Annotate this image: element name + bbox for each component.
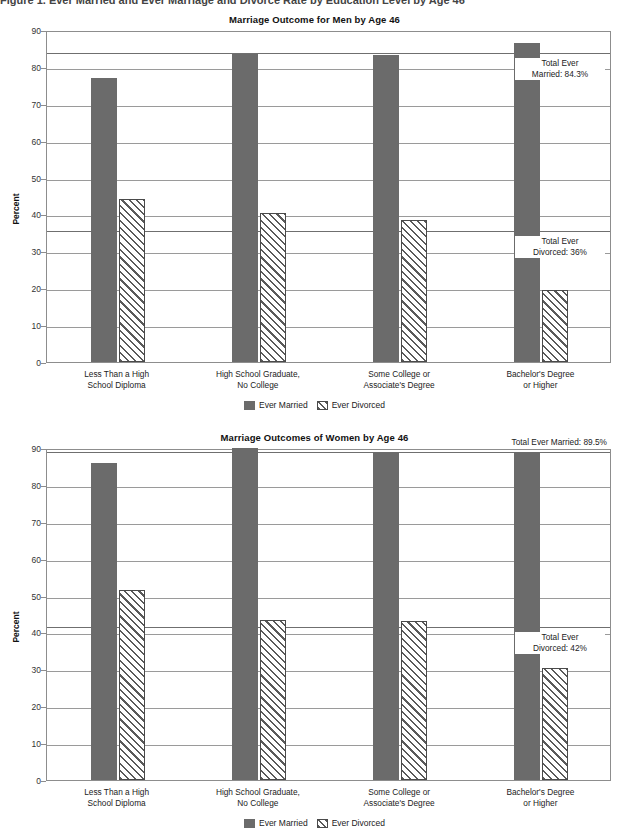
- y-axis-tick-label: 60: [32, 137, 41, 147]
- y-axis-tick-mark: [41, 486, 46, 487]
- y-axis-tick-mark: [41, 179, 46, 180]
- legend-item-ever-married: Ever Married: [244, 818, 308, 828]
- x-axis-category-label: Some College or Associate's Degree: [329, 369, 470, 391]
- legend-item-ever-divorced: Ever Divorced: [317, 400, 385, 410]
- y-axis-tick-label: 80: [32, 481, 41, 491]
- y-axis-tick-label: 10: [32, 321, 41, 331]
- y-axis-tick-mark: [41, 523, 46, 524]
- x-axis-category-label: Bachelor's Degree or Higher: [470, 787, 611, 809]
- chart-women-legend: Ever Married Ever Divorced: [0, 818, 629, 828]
- y-axis-tick-mark: [41, 31, 46, 32]
- legend-item-ever-married: Ever Married: [244, 400, 308, 410]
- reference-line-annotation: Total Ever Divorced: 36%: [515, 236, 605, 258]
- y-axis-tick-mark: [41, 289, 46, 290]
- x-axis-category-label: High School Graduate, No College: [187, 787, 328, 809]
- bar-ever-married: [373, 452, 399, 780]
- chart-men-plot-area: 0102030405060708090Total Ever Married: 8…: [46, 31, 611, 363]
- y-axis-tick-mark: [41, 68, 46, 69]
- y-axis-tick-mark: [41, 363, 46, 364]
- bar-ever-married: [91, 463, 117, 780]
- divorced-swatch-icon: [317, 819, 328, 828]
- legend-label-ever-married: Ever Married: [259, 400, 308, 410]
- reference-line-annotation: Total Ever Divorced: 42%: [515, 632, 605, 654]
- x-axis-category-label: High School Graduate, No College: [187, 369, 328, 391]
- figure-caption: Figure 1. Ever Married and Ever Marriage…: [0, 0, 629, 8]
- bar-ever-divorced: [401, 621, 427, 780]
- chart-women-plot-area: 0102030405060708090Total Ever Married: 8…: [46, 449, 611, 781]
- bar-ever-divorced: [542, 290, 568, 362]
- bar-ever-married: [232, 448, 258, 780]
- y-axis-tick-label: 20: [32, 702, 41, 712]
- y-axis-tick-mark: [41, 633, 46, 634]
- y-axis-tick-label: 40: [32, 628, 41, 638]
- y-axis-tick-mark: [41, 670, 46, 671]
- bar-ever-married: [232, 54, 258, 362]
- bar-ever-married: [514, 43, 540, 362]
- y-axis-tick-label: 30: [32, 665, 41, 675]
- y-axis-tick-mark: [41, 142, 46, 143]
- married-swatch-icon: [244, 401, 255, 410]
- chart-women-ylabel: Percent: [11, 607, 21, 647]
- x-axis-category-label: Some College or Associate's Degree: [329, 787, 470, 809]
- y-axis-tick-label: 80: [32, 63, 41, 73]
- married-swatch-icon: [244, 819, 255, 828]
- bar-ever-divorced: [260, 620, 286, 780]
- bar-ever-divorced: [542, 668, 568, 780]
- y-axis-tick-label: 40: [32, 210, 41, 220]
- legend-label-ever-divorced: Ever Divorced: [332, 400, 385, 410]
- reference-line-annotation: Total Ever Married: 89.5%: [510, 437, 609, 448]
- chart-men: Marriage Outcome for Men by Age 46 Perce…: [0, 14, 629, 424]
- y-axis-tick-mark: [41, 449, 46, 450]
- chart-men-plot-frame: [46, 31, 611, 363]
- y-axis-tick-mark: [41, 781, 46, 782]
- legend-label-ever-divorced: Ever Divorced: [332, 818, 385, 828]
- chart-men-legend: Ever Married Ever Divorced: [0, 400, 629, 410]
- y-axis-tick-mark: [41, 744, 46, 745]
- y-axis-tick-mark: [41, 597, 46, 598]
- y-axis-tick-label: 50: [32, 174, 41, 184]
- bar-ever-divorced: [401, 220, 427, 362]
- y-axis-tick-mark: [41, 326, 46, 327]
- y-axis-tick-mark: [41, 105, 46, 106]
- y-axis-tick-label: 70: [32, 518, 41, 528]
- legend-item-ever-divorced: Ever Divorced: [317, 818, 385, 828]
- y-axis-tick-mark: [41, 560, 46, 561]
- y-axis-tick-label: 30: [32, 247, 41, 257]
- bar-ever-married: [373, 55, 399, 362]
- y-axis-tick-label: 70: [32, 100, 41, 110]
- x-axis-category-label: Bachelor's Degree or Higher: [470, 369, 611, 391]
- chart-men-ylabel: Percent: [11, 189, 21, 229]
- bar-ever-married: [514, 452, 540, 780]
- reference-line-annotation: Total Ever Married: 84.3%: [515, 58, 605, 80]
- bar-ever-divorced: [119, 590, 145, 780]
- y-axis-tick-label: 10: [32, 739, 41, 749]
- x-axis-category-label: Less Than a High School Diploma: [46, 369, 187, 391]
- y-axis-tick-label: 90: [32, 444, 41, 454]
- bar-ever-divorced: [260, 213, 286, 362]
- x-axis-category-label: Less Than a High School Diploma: [46, 787, 187, 809]
- y-axis-tick-label: 60: [32, 555, 41, 565]
- divorced-swatch-icon: [317, 401, 328, 410]
- y-axis-tick-mark: [41, 707, 46, 708]
- chart-men-title: Marriage Outcome for Men by Age 46: [0, 14, 629, 25]
- y-axis-tick-label: 50: [32, 592, 41, 602]
- y-axis-tick-mark: [41, 252, 46, 253]
- y-axis-tick-label: 90: [32, 26, 41, 36]
- bar-ever-married: [91, 78, 117, 362]
- y-axis-tick-mark: [41, 215, 46, 216]
- chart-women-plot-frame: [46, 449, 611, 781]
- bar-ever-divorced: [119, 199, 145, 362]
- y-axis-tick-label: 20: [32, 284, 41, 294]
- legend-label-ever-married: Ever Married: [259, 818, 308, 828]
- chart-women: Marriage Outcomes of Women by Age 46 Per…: [0, 432, 629, 828]
